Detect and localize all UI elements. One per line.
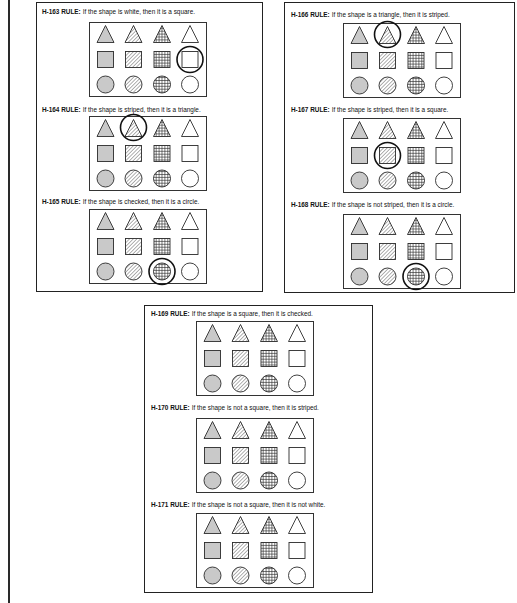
striped-circle-icon xyxy=(125,170,142,187)
shape-grid-h166 xyxy=(343,23,461,98)
striped-triangle-icon xyxy=(232,422,249,439)
rule-code: H-168 RULE: xyxy=(291,201,330,208)
checked-square-icon xyxy=(261,351,277,367)
gray-triangle-icon xyxy=(97,26,114,43)
shape-grid-canvas xyxy=(89,116,207,191)
striped-square-icon xyxy=(380,148,396,164)
shape-grid-canvas xyxy=(196,418,314,493)
striped-square-icon xyxy=(126,146,142,162)
gray-square-icon xyxy=(98,146,114,162)
striped-triangle-icon xyxy=(232,325,249,342)
gray-square-icon xyxy=(205,351,221,367)
shape-grid-h169 xyxy=(196,321,314,396)
striped-triangle-icon xyxy=(379,27,396,44)
checked-square-icon xyxy=(408,244,424,260)
white-square-icon xyxy=(436,148,452,164)
white-triangle-icon xyxy=(289,422,306,439)
gray-square-icon xyxy=(352,148,368,164)
white-square-icon xyxy=(436,53,452,69)
rule-text: If the shape is not a square, then it is… xyxy=(192,501,326,508)
rule-h165: H-165 RULE:If the shape is checked, then… xyxy=(42,198,199,206)
checked-square-icon xyxy=(408,148,424,164)
shape-grid-canvas xyxy=(343,118,461,193)
rule-h169: H-169 RULE:If the shape is a square, the… xyxy=(151,310,313,318)
rule-h168: H-168 RULE:If the shape is not striped, … xyxy=(291,201,454,209)
white-circle-icon xyxy=(182,76,199,93)
rule-h170: H-170 RULE:If the shape is not a square,… xyxy=(151,404,319,412)
rule-h171: H-171 RULE:If the shape is not a square,… xyxy=(151,501,325,509)
rule-code: H-170 RULE: xyxy=(151,404,190,411)
white-square-icon xyxy=(436,244,452,260)
shape-grid-h171 xyxy=(196,513,314,588)
white-circle-icon xyxy=(289,375,306,392)
rule-text: If the shape is white, then it is a squa… xyxy=(83,8,195,15)
gray-triangle-icon xyxy=(351,27,368,44)
rule-code: H-166 RULE: xyxy=(291,11,330,18)
white-circle-icon xyxy=(436,268,453,285)
gray-circle-icon xyxy=(97,170,114,187)
shape-grid-canvas xyxy=(343,23,461,98)
gray-triangle-icon xyxy=(351,218,368,235)
left-panel: H-163 RULE:If the shape is white, then i… xyxy=(36,2,263,292)
white-square-icon xyxy=(182,239,198,255)
striped-circle-icon xyxy=(379,172,396,189)
checked-circle-icon xyxy=(408,268,425,285)
gray-triangle-icon xyxy=(204,422,221,439)
white-circle-icon xyxy=(289,472,306,489)
rule-text: If the shape is not striped, then it is … xyxy=(332,201,455,208)
checked-square-icon xyxy=(154,52,170,68)
gray-triangle-icon xyxy=(97,213,114,230)
checked-triangle-icon xyxy=(261,422,278,439)
striped-triangle-icon xyxy=(379,122,396,139)
rule-code: H-165 RULE: xyxy=(42,198,81,205)
rule-code: H-167 RULE: xyxy=(291,106,330,113)
gray-square-icon xyxy=(205,448,221,464)
gray-square-icon xyxy=(98,239,114,255)
gray-circle-icon xyxy=(351,172,368,189)
gray-square-icon xyxy=(98,52,114,68)
checked-circle-icon xyxy=(261,567,278,584)
striped-square-icon xyxy=(126,239,142,255)
checked-triangle-icon xyxy=(154,26,171,43)
checked-square-icon xyxy=(261,543,277,559)
striped-square-icon xyxy=(233,543,249,559)
checked-square-icon xyxy=(261,448,277,464)
white-triangle-icon xyxy=(436,218,453,235)
striped-square-icon xyxy=(380,244,396,260)
rule-code: H-163 RULE: xyxy=(42,8,81,15)
page-margin-line xyxy=(8,0,10,603)
striped-triangle-icon xyxy=(379,218,396,235)
gray-circle-icon xyxy=(204,375,221,392)
gray-square-icon xyxy=(352,53,368,69)
checked-circle-icon xyxy=(261,472,278,489)
striped-square-icon xyxy=(233,351,249,367)
shape-grid-h164 xyxy=(89,116,207,191)
shape-grid-canvas xyxy=(343,214,461,289)
checked-triangle-icon xyxy=(261,325,278,342)
gray-triangle-icon xyxy=(351,122,368,139)
checked-circle-icon xyxy=(261,375,278,392)
striped-circle-icon xyxy=(379,268,396,285)
white-triangle-icon xyxy=(182,120,199,137)
striped-triangle-icon xyxy=(125,213,142,230)
shape-grid-h167 xyxy=(343,118,461,193)
rule-text: If the shape is not a square, then it is… xyxy=(192,404,319,411)
shape-grid-h168 xyxy=(343,214,461,289)
checked-triangle-icon xyxy=(154,213,171,230)
checked-square-icon xyxy=(154,239,170,255)
white-triangle-icon xyxy=(182,26,199,43)
white-triangle-icon xyxy=(436,122,453,139)
checked-circle-icon xyxy=(154,263,171,280)
checked-circle-icon xyxy=(154,170,171,187)
gray-circle-icon xyxy=(351,268,368,285)
striped-triangle-icon xyxy=(125,26,142,43)
rule-text: If the shape is a square, then it is che… xyxy=(192,310,313,317)
striped-circle-icon xyxy=(125,263,142,280)
gray-circle-icon xyxy=(97,263,114,280)
rule-text: If the shape is checked, then it is a ci… xyxy=(83,198,200,205)
white-square-icon xyxy=(289,543,305,559)
checked-triangle-icon xyxy=(408,27,425,44)
checked-triangle-icon xyxy=(154,120,171,137)
striped-circle-icon xyxy=(232,567,249,584)
checked-circle-icon xyxy=(154,76,171,93)
